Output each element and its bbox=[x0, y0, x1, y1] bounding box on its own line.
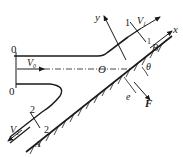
v1-label: V1 bbox=[137, 16, 146, 27]
jet-plate-diagram: 0 0 V0 O y x 1 1 V1 B θ e F 2 2 V2 A bbox=[0, 0, 183, 157]
y-axis-label: y bbox=[95, 12, 100, 23]
section-2-label-a: 2 bbox=[30, 105, 35, 115]
force-label: F bbox=[145, 98, 152, 109]
theta-label: θ bbox=[146, 62, 151, 72]
section-0-bottom-label: 0 bbox=[9, 86, 15, 97]
origin-label: O bbox=[98, 64, 106, 75]
v2-label: V2 bbox=[10, 125, 19, 136]
section-1-label-a: 1 bbox=[125, 18, 130, 28]
section-1-label-b: 1 bbox=[147, 38, 151, 46]
section-0-top-label: 0 bbox=[11, 44, 17, 55]
jet-top-boundary bbox=[14, 37, 128, 56]
offset-e-label: e bbox=[126, 92, 130, 102]
x-axis-label: x bbox=[173, 24, 178, 35]
v0-label: V0 bbox=[27, 58, 36, 69]
point-a-label: A bbox=[35, 140, 41, 149]
section-2-label-b: 2 bbox=[44, 125, 49, 135]
diagram-drawing bbox=[0, 0, 183, 157]
point-b-label: B bbox=[152, 43, 158, 53]
